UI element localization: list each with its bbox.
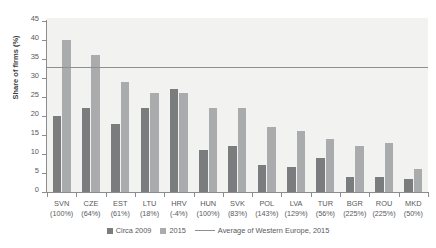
x-axis-label: TUR(56%) xyxy=(311,199,340,219)
bar-circa-2009 xyxy=(375,177,384,192)
bar-circa-2009 xyxy=(258,165,267,192)
x-axis-tick-mark xyxy=(252,193,253,197)
x-axis-tick-mark xyxy=(135,193,136,197)
y-axis-tick-mark xyxy=(42,116,46,117)
x-axis-country-change: (-4%) xyxy=(164,209,193,219)
x-axis-label: HRV(-4%) xyxy=(164,199,193,219)
x-axis-country-code: BGR xyxy=(347,199,363,208)
bar-circa-2009 xyxy=(346,177,355,192)
bar-2015 xyxy=(414,169,423,192)
x-axis-country-change: (225%) xyxy=(340,209,369,219)
bar-group xyxy=(311,18,340,192)
bar-2015 xyxy=(385,143,394,192)
legend-label-2015: 2015 xyxy=(169,226,185,235)
y-axis-tick: 5 xyxy=(0,173,47,174)
y-axis-title: Share of firms (%) xyxy=(11,8,20,128)
bar-2015 xyxy=(91,55,100,192)
bar-circa-2009 xyxy=(199,150,208,192)
y-axis-tick-label: 20 xyxy=(31,110,39,118)
legend-item-circa-2009: Circa 2009 xyxy=(107,226,152,235)
y-axis-tick-label: 5 xyxy=(35,167,39,175)
legend-item-average-western-europe: Average of Western Europe, 2015 xyxy=(195,226,329,235)
x-axis-country-change: (50%) xyxy=(399,209,428,219)
y-axis-tick-mark xyxy=(42,97,46,98)
y-axis-tick-label: 35 xyxy=(31,53,39,61)
y-axis-tick-mark xyxy=(42,135,46,136)
bar-circa-2009 xyxy=(82,108,91,192)
bar-circa-2009 xyxy=(111,124,120,192)
bar-group xyxy=(47,18,76,192)
bar-2015 xyxy=(297,131,306,192)
chart-legend: Circa 2009 2015 Average of Western Europ… xyxy=(0,226,436,235)
x-axis-country-code: MKD xyxy=(405,199,421,208)
bar-2015 xyxy=(209,108,218,192)
x-axis-country-code: EST xyxy=(113,199,127,208)
y-axis-tick-label: 0 xyxy=(35,186,39,194)
bar-2015 xyxy=(121,82,130,192)
legend-label-circa-2009: Circa 2009 xyxy=(116,226,152,235)
y-axis-tick-mark xyxy=(42,40,46,41)
x-axis-country-code: SVK xyxy=(230,199,245,208)
average-reference-line xyxy=(47,67,428,68)
x-axis-country-code: CZE xyxy=(84,199,99,208)
y-axis-tick-mark xyxy=(42,78,46,79)
y-axis-tick-label: 15 xyxy=(31,129,39,137)
x-axis-label: POL(143%) xyxy=(252,199,281,219)
x-axis-tick-mark xyxy=(106,193,107,197)
x-axis-country-code: HUN xyxy=(200,199,216,208)
legend-label-average-western-europe: Average of Western Europe, 2015 xyxy=(218,226,329,235)
x-axis-tick-mark xyxy=(399,193,400,197)
bar-circa-2009 xyxy=(141,108,150,192)
x-axis-country-change: (129%) xyxy=(281,209,310,219)
y-axis-tick: 45 xyxy=(0,21,47,22)
bar-group xyxy=(106,18,135,192)
bar-group xyxy=(281,18,310,192)
bar-circa-2009 xyxy=(228,146,237,192)
bar-2015 xyxy=(62,40,71,192)
x-axis-country-code: LTU xyxy=(143,199,156,208)
x-axis-tick-mark xyxy=(311,193,312,197)
y-axis-tick: 20 xyxy=(0,116,47,117)
x-axis-country-change: (100%) xyxy=(194,209,223,219)
y-axis-tick: 10 xyxy=(0,154,47,155)
bar-group xyxy=(369,18,398,192)
bar-group xyxy=(194,18,223,192)
x-axis-country-code: ROU xyxy=(376,199,392,208)
x-axis-line xyxy=(46,192,429,193)
x-axis-tick-mark xyxy=(369,193,370,197)
x-axis-tick-mark xyxy=(47,193,48,197)
y-axis-tick-label: 25 xyxy=(31,91,39,99)
bar-group xyxy=(223,18,252,192)
y-axis-tick-mark xyxy=(42,154,46,155)
x-axis-tick-mark xyxy=(76,193,77,197)
x-axis-tick-mark xyxy=(223,193,224,197)
bar-2015 xyxy=(267,127,276,192)
y-axis-tick: 15 xyxy=(0,135,47,136)
bar-group xyxy=(340,18,369,192)
x-axis-country-change: (56%) xyxy=(311,209,340,219)
bar-2015 xyxy=(355,146,364,192)
y-axis-tick-mark xyxy=(42,21,46,22)
chart-container: Share of firms (%) 051015202530354045 SV… xyxy=(0,0,436,248)
x-axis-tick-mark xyxy=(194,193,195,197)
y-axis-tick-label: 40 xyxy=(31,34,39,42)
x-axis-tick-mark xyxy=(340,193,341,197)
y-axis-tick-mark xyxy=(42,173,46,174)
x-axis-label: BGR(225%) xyxy=(340,199,369,219)
y-axis-tick-mark xyxy=(42,59,46,60)
bar-group xyxy=(76,18,105,192)
square-light-icon xyxy=(160,228,166,234)
y-axis-tick: 40 xyxy=(0,40,47,41)
x-axis-country-code: POL xyxy=(259,199,274,208)
legend-item-2015: 2015 xyxy=(160,226,185,235)
bar-circa-2009 xyxy=(53,116,62,192)
x-axis-country-change: (225%) xyxy=(369,209,398,219)
x-axis-country-change: (18%) xyxy=(135,209,164,219)
x-axis-label: SVN(100%) xyxy=(47,199,76,219)
y-axis-tick-label: 30 xyxy=(31,72,39,80)
x-axis-country-change: (100%) xyxy=(47,209,76,219)
x-axis-country-change: (61%) xyxy=(106,209,135,219)
bar-group xyxy=(252,18,281,192)
x-axis-label: LVA(129%) xyxy=(281,199,310,219)
x-axis-country-change: (143%) xyxy=(252,209,281,219)
